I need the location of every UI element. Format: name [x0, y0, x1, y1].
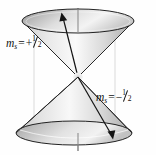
- spin-cone-diagram: ms=+12 ms=−12: [0, 0, 156, 155]
- spin-cone-illustration: [0, 0, 156, 155]
- spin-up-cone: [22, 9, 134, 77]
